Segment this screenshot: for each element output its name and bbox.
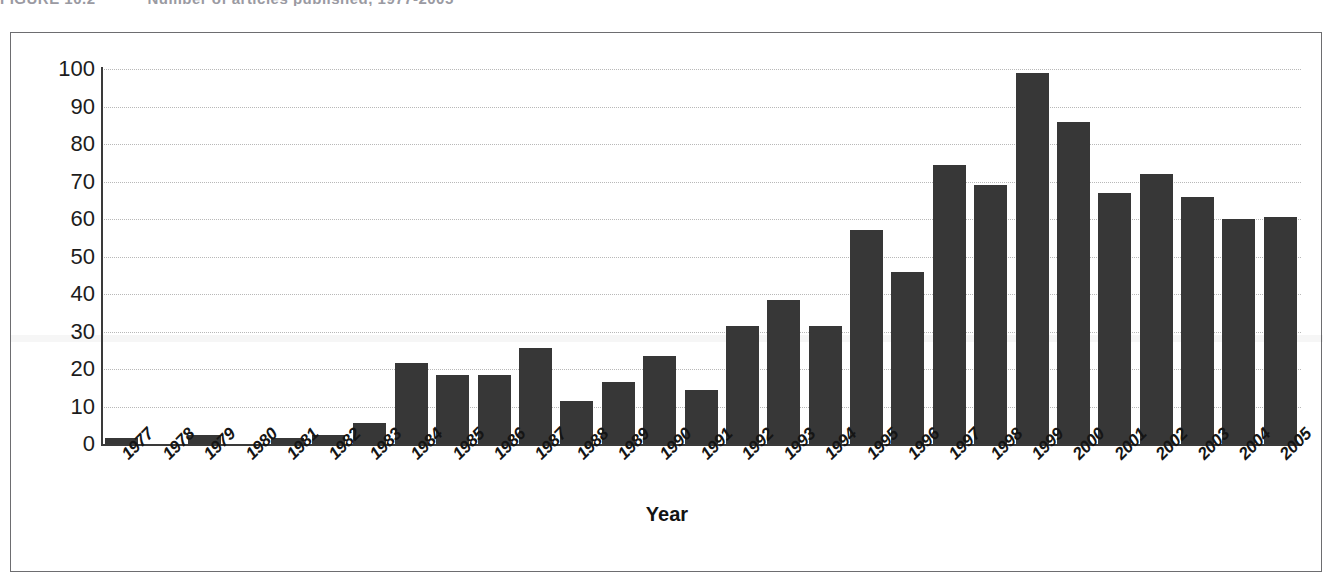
bar-chart: 1009080706050403020100 19771978197919801… — [11, 33, 1323, 573]
bar-2001 — [1098, 193, 1131, 444]
y-axis-line — [101, 67, 103, 446]
y-tick-80: 80 — [35, 133, 95, 155]
figure-caption-text: Number of articles published, 1977-2005 — [148, 0, 454, 6]
bar-1993 — [767, 300, 800, 444]
y-axis-tick-labels: 1009080706050403020100 — [25, 33, 95, 573]
y-tick-0: 0 — [35, 433, 95, 455]
bar-1992 — [726, 326, 759, 444]
bar-2004 — [1222, 219, 1255, 444]
bar-2002 — [1140, 174, 1173, 444]
bar-1995 — [850, 230, 883, 444]
bar-1996 — [891, 272, 924, 445]
gridline-80 — [101, 144, 1301, 145]
bar-2003 — [1181, 197, 1214, 445]
bar-2005 — [1264, 217, 1297, 444]
bar-1994 — [809, 326, 842, 444]
bar-1998 — [974, 185, 1007, 444]
figure-frame: 1009080706050403020100 19771978197919801… — [10, 32, 1322, 572]
y-tick-30: 30 — [35, 321, 95, 343]
bar-2000 — [1057, 122, 1090, 445]
y-tick-50: 50 — [35, 246, 95, 268]
y-tick-90: 90 — [35, 96, 95, 118]
x-axis-title: Year — [11, 503, 1323, 526]
y-tick-20: 20 — [35, 358, 95, 380]
bar-1997 — [933, 165, 966, 444]
gridline-90 — [101, 107, 1301, 108]
gridline-100 — [101, 69, 1301, 70]
figure-caption-number: FIGURE 10.2 — [0, 0, 96, 6]
y-tick-100: 100 — [35, 58, 95, 80]
plot-region — [101, 69, 1301, 444]
figure-caption: FIGURE 10.2Number of articles published,… — [0, 0, 1344, 6]
y-tick-70: 70 — [35, 171, 95, 193]
bar-1987 — [519, 348, 552, 444]
y-tick-10: 10 — [35, 396, 95, 418]
bar-1999 — [1016, 73, 1049, 444]
y-tick-40: 40 — [35, 283, 95, 305]
gridline-70 — [101, 182, 1301, 183]
y-tick-60: 60 — [35, 208, 95, 230]
